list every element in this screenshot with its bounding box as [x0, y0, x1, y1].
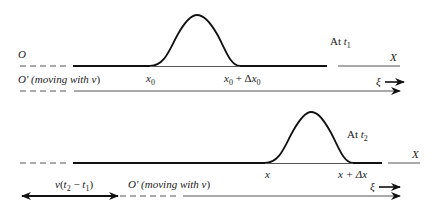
xi-label-top: ξ — [376, 75, 381, 88]
xi-label-bottom: ξ — [370, 180, 375, 193]
origin-label-o: O — [18, 48, 26, 60]
pulse-end-label-x0-plus-dx0: x0 + Δx0 — [223, 72, 261, 87]
pulse-end-label-x-plus-dx: x + Δx — [337, 168, 367, 180]
displacement-label: v(t2 − t1) — [55, 178, 93, 193]
plus-delta: + Δ — [233, 72, 252, 84]
top-panel: O X At t1 x0 x0 + Δx0 O′ (moving with v)… — [18, 15, 404, 91]
time-label-t1: At t1 — [330, 35, 351, 50]
disp-minus: − — [71, 178, 83, 190]
wave-pulse-reference-frames-diagram: O X At t1 x0 x0 + Δx0 O′ (moving with v)… — [0, 0, 436, 212]
moving-frame-label-bottom: O′ (moving with v) — [128, 178, 211, 191]
time-prefix: At — [347, 128, 361, 140]
moving-frame-text: O′ (moving with — [128, 178, 202, 191]
moving-frame-text: O′ (moving with — [18, 73, 92, 86]
time-label-t2: At t2 — [347, 128, 368, 143]
wave-pulse-t1 — [150, 15, 240, 66]
x-sub: 0 — [151, 78, 155, 87]
moving-frame-label-top: O′ (moving with v) — [18, 73, 101, 86]
moving-frame-close: ) — [207, 178, 211, 191]
moving-frame-close: ) — [97, 73, 101, 86]
pulse-start-label-x0: x0 — [145, 72, 155, 87]
axis-label-x-top: X — [389, 51, 398, 63]
x-sub-b: 0 — [257, 78, 261, 87]
time-sub: 2 — [364, 134, 368, 143]
pulse-start-label-x: x — [264, 168, 270, 180]
bottom-panel: X At t2 x x + Δx ξ v(t2 − t1) O′ (moving… — [20, 112, 420, 196]
wave-pulse-t2 — [265, 112, 353, 163]
time-sub: 1 — [347, 41, 351, 50]
disp-close: ) — [89, 178, 93, 191]
axis-label-x-bottom: X — [411, 148, 420, 160]
time-prefix: At — [330, 35, 344, 47]
